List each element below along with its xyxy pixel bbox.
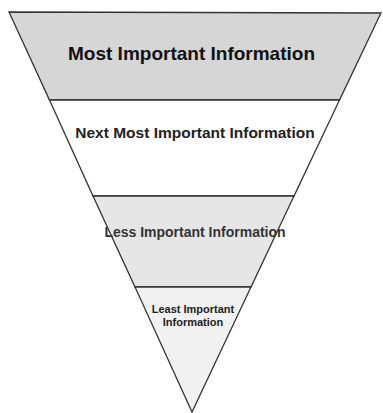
level-2-label: Next Most Important Information (60, 124, 330, 143)
level-4-label: Least Important Information (130, 303, 256, 329)
level-3-label: Less Important Information (100, 224, 290, 241)
level-3-shape (93, 196, 294, 287)
level-2-shape (50, 100, 340, 196)
level-1-label: Most Important Information (0, 43, 383, 66)
